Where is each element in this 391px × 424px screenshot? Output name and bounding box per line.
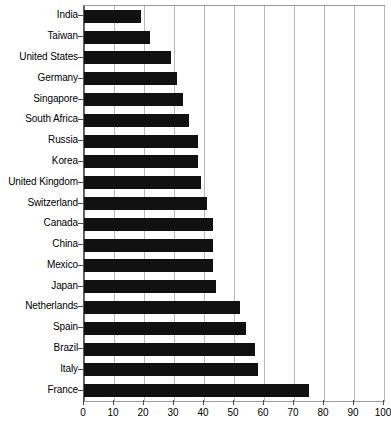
category-tick bbox=[78, 244, 83, 245]
category-tick bbox=[78, 99, 83, 100]
category-label: United Kingdom bbox=[0, 177, 78, 187]
category-label: Netherlands bbox=[0, 301, 78, 311]
bar bbox=[84, 114, 189, 127]
category-label: Russia bbox=[0, 135, 78, 145]
bar bbox=[84, 31, 150, 44]
category-label: France bbox=[0, 385, 78, 395]
bar bbox=[84, 259, 213, 272]
value-tick-label: 10 bbox=[107, 407, 118, 419]
bar bbox=[84, 322, 246, 335]
plot-area bbox=[83, 5, 385, 402]
value-tick-60 bbox=[263, 400, 264, 405]
value-tick-label: 20 bbox=[137, 407, 148, 419]
value-tick-30 bbox=[173, 400, 174, 405]
bar bbox=[84, 93, 183, 106]
bar bbox=[84, 135, 198, 148]
value-tick-label: 100 bbox=[375, 407, 391, 419]
value-axis-ticks bbox=[83, 400, 385, 406]
value-tick-80 bbox=[323, 400, 324, 405]
bar-series bbox=[84, 6, 384, 401]
category-tick bbox=[78, 223, 83, 224]
category-label: Switzerland bbox=[0, 198, 78, 208]
category-tick bbox=[78, 306, 83, 307]
category-tick bbox=[78, 57, 83, 58]
bar bbox=[84, 218, 213, 231]
category-label: United States bbox=[0, 52, 78, 62]
category-tick bbox=[78, 265, 83, 266]
category-axis-ticks bbox=[78, 5, 84, 401]
category-label: Brazil bbox=[0, 343, 78, 353]
value-tick-50 bbox=[233, 400, 234, 405]
bar bbox=[84, 176, 201, 189]
value-tick-label: 80 bbox=[317, 407, 328, 419]
category-axis-labels: IndiaTaiwanUnited StatesGermanySingapore… bbox=[0, 5, 78, 400]
category-label: Mexico bbox=[0, 260, 78, 270]
bar bbox=[84, 239, 213, 252]
bar bbox=[84, 280, 216, 293]
category-tick bbox=[78, 348, 83, 349]
category-tick bbox=[78, 369, 83, 370]
bar bbox=[84, 51, 171, 64]
bar bbox=[84, 301, 240, 314]
category-label: Italy bbox=[0, 364, 78, 374]
category-tick bbox=[78, 119, 83, 120]
bar bbox=[84, 197, 207, 210]
category-tick bbox=[78, 78, 83, 79]
category-tick bbox=[78, 161, 83, 162]
value-tick-label: 0 bbox=[80, 407, 86, 419]
category-label: Singapore bbox=[0, 94, 78, 104]
value-tick-70 bbox=[293, 400, 294, 405]
bar bbox=[84, 343, 255, 356]
value-tick-0 bbox=[83, 400, 84, 405]
category-label: Taiwan bbox=[0, 31, 78, 41]
category-label: India bbox=[0, 10, 78, 20]
category-label: Korea bbox=[0, 156, 78, 166]
value-tick-label: 50 bbox=[227, 407, 238, 419]
category-tick bbox=[78, 286, 83, 287]
value-tick-label: 40 bbox=[197, 407, 208, 419]
value-tick-label: 30 bbox=[167, 407, 178, 419]
bar bbox=[84, 384, 309, 397]
category-tick bbox=[78, 140, 83, 141]
value-tick-20 bbox=[143, 400, 144, 405]
value-tick-100 bbox=[383, 400, 384, 405]
value-tick-90 bbox=[353, 400, 354, 405]
value-tick-label: 70 bbox=[287, 407, 298, 419]
value-tick-label: 60 bbox=[257, 407, 268, 419]
category-label: China bbox=[0, 239, 78, 249]
value-tick-label: 90 bbox=[347, 407, 358, 419]
bar bbox=[84, 363, 258, 376]
category-label: South Africa bbox=[0, 114, 78, 124]
category-tick bbox=[78, 390, 83, 391]
category-tick bbox=[78, 182, 83, 183]
category-label: Canada bbox=[0, 218, 78, 228]
bar bbox=[84, 10, 141, 23]
value-tick-10 bbox=[113, 400, 114, 405]
value-tick-40 bbox=[203, 400, 204, 405]
bar bbox=[84, 72, 177, 85]
category-label: Japan bbox=[0, 281, 78, 291]
category-tick bbox=[78, 327, 83, 328]
gridline-100 bbox=[384, 6, 385, 401]
category-label: Spain bbox=[0, 322, 78, 332]
category-tick bbox=[78, 15, 83, 16]
value-axis-tick-labels: 0102030405060708090100 bbox=[0, 407, 384, 421]
category-label: Germany bbox=[0, 73, 78, 83]
category-tick bbox=[78, 203, 83, 204]
category-tick bbox=[78, 36, 83, 37]
bar bbox=[84, 155, 198, 168]
